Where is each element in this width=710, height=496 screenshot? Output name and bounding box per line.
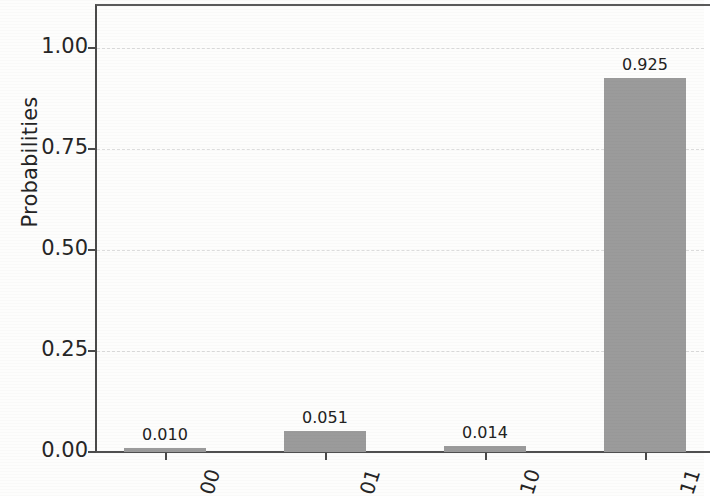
x-tick-label: 10 [515, 466, 546, 496]
bar-value-label: 0.014 [425, 423, 545, 442]
bar[interactable] [604, 78, 686, 452]
bar-value-label: 0.010 [105, 425, 225, 444]
bar-value-label: 0.051 [265, 408, 385, 427]
y-tick-label: 0.50 [0, 236, 88, 260]
y-axis-title: Probabilities [18, 62, 42, 262]
x-tick-mark [485, 452, 487, 460]
x-tick-label: 11 [675, 466, 706, 496]
y-tick-label: 0.25 [0, 337, 88, 361]
bar[interactable] [124, 448, 206, 452]
x-tick-label: 00 [195, 466, 226, 496]
y-tick-label: 0.00 [0, 438, 88, 462]
y-tick-mark [88, 451, 96, 453]
y-tick-mark [88, 350, 96, 352]
y-tick-label: 0.75 [0, 135, 88, 159]
bar[interactable] [444, 446, 526, 452]
y-tick-label: 1.00 [0, 34, 88, 58]
x-tick-mark [645, 452, 647, 460]
y-tick-mark [88, 47, 96, 49]
y-tick-mark [88, 148, 96, 150]
bar-value-label: 0.925 [585, 55, 705, 74]
x-tick-mark [325, 452, 327, 460]
y-tick-mark [88, 249, 96, 251]
bar[interactable] [284, 431, 366, 452]
gridline [97, 48, 704, 49]
x-tick-mark [165, 452, 167, 460]
x-tick-label: 01 [355, 466, 386, 496]
